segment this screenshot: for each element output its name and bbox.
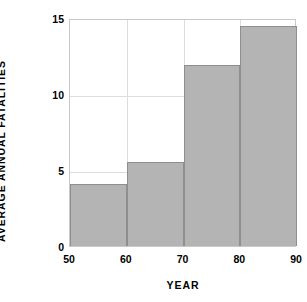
y-tick-label: 0 [40,242,64,253]
bar [70,184,127,246]
y-axis-title: AVERAGE ANNUAL FATALITIES [0,0,26,302]
y-tick-label: 10 [40,90,64,101]
x-axis-title: YEAR [69,279,297,291]
y-tick-label: 5 [40,166,64,177]
bar [127,162,184,246]
bar [240,26,297,246]
x-tick-label: 80 [219,253,259,265]
x-axis-tick-labels: 5060708090 [69,253,296,267]
x-tick-label: 90 [276,253,307,265]
plot-area [69,19,296,247]
y-tick-label: 15 [40,14,64,25]
x-tick-label: 50 [49,253,89,265]
x-tick-label: 60 [106,253,146,265]
y-axis-tick-labels: 051015 [38,19,64,247]
bar-chart-figure: AVERAGE ANNUAL FATALITIES 051015 5060708… [0,0,307,302]
bar [184,65,241,246]
plot-inner [70,20,295,246]
x-tick-label: 70 [163,253,203,265]
